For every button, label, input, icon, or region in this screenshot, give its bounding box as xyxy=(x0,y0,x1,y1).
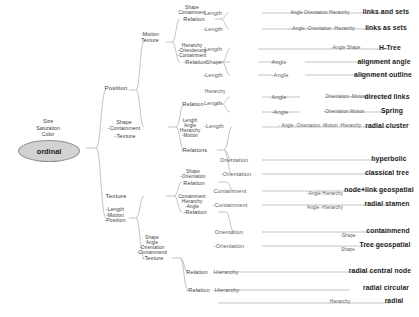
edge-label-shape-2: Shape xyxy=(330,248,366,253)
edge-label-hierarchy-2: Hierarchy xyxy=(204,269,248,275)
leaf-radial-central-node[interactable]: radial central node xyxy=(344,267,416,274)
edge-label-length-1: Length xyxy=(196,10,230,16)
edge-label-not-orientation-2: -Orientation xyxy=(204,243,254,249)
edge-label-containment: Containment xyxy=(204,188,256,194)
edge-label-not-length-1: -Length xyxy=(196,26,230,32)
root-oval-ordinal[interactable]: ordinal xyxy=(18,140,80,162)
node-position[interactable]: Position xyxy=(99,85,133,92)
edge-label-orientation-2: Orientation xyxy=(206,229,252,235)
node-not-relation-6[interactable]: -Relation xyxy=(172,209,218,215)
leaf-radial-circular[interactable]: radial circular xyxy=(356,284,416,291)
edge-label-not-length-2: -Length xyxy=(196,72,230,78)
node-shape-not-orientation[interactable]: Shape -Orientation xyxy=(168,170,218,180)
edge-label-not-angle-2: -Angle xyxy=(263,109,297,115)
leaf-links-and-sets[interactable]: links and sets xyxy=(356,8,416,15)
node-relation-1[interactable]: Relation xyxy=(172,16,216,22)
node-shape-not-containment[interactable]: Shape -Containment xyxy=(96,120,152,131)
leaf-classical-tree[interactable]: classical tree xyxy=(358,169,416,176)
edge-label-hierarchy-3: Hierarchy xyxy=(318,300,362,305)
edge-label-not-angle-1: -Angle xyxy=(263,72,297,78)
edge-label-not-length-3: -Length xyxy=(196,123,232,129)
edge-label-length-2: Length xyxy=(196,46,230,52)
root-attributes: Size Saturation Color xyxy=(18,118,78,138)
leaf-radial-stamen[interactable]: radial stamen xyxy=(358,200,416,207)
edge-label-not-shape-2: -Shape xyxy=(330,234,366,239)
leaf-h-tree[interactable]: H-Tree xyxy=(366,44,414,51)
edge-label-orientation-1: Orientation xyxy=(212,157,256,163)
edge-label-hierarchy-1: Hierarchy xyxy=(196,90,234,95)
leaf-radial[interactable]: radial xyxy=(372,297,416,304)
node-motion-texture[interactable]: -Motion Texture xyxy=(132,32,168,43)
diagram-canvas: Size Saturation Color ordinal Position -… xyxy=(0,0,419,317)
leaf-containmend[interactable]: containmend xyxy=(360,227,416,234)
leaf-spring[interactable]: Spring xyxy=(368,107,416,114)
edge-label-length-3: Length xyxy=(196,100,230,106)
leaf-tree-geospatial[interactable]: Tree geospatial xyxy=(354,241,416,248)
node-texture[interactable]: Texture xyxy=(100,193,132,200)
node-not-relations[interactable]: -Relations xyxy=(170,147,218,153)
node-relation-5[interactable]: Relation xyxy=(172,180,216,186)
edge-label-angle-1: Angle xyxy=(263,59,295,65)
edge-label-not-hierarchy-2: -Hierarchy xyxy=(202,287,250,293)
node-shape-angle-not-orientation-containment[interactable]: Shape Angle -Orientation -Containmend xyxy=(126,236,178,256)
leaf-links-as-sets[interactable]: links as sets xyxy=(356,24,416,31)
leaf-hyperbolic[interactable]: hyperbolic xyxy=(362,155,416,162)
edge-label-not-containment: -Containment xyxy=(202,202,258,208)
edge-label-angle-not-hierarchy: Angle -Hierarchy xyxy=(292,206,358,211)
leaf-radial-cluster[interactable]: radial cluster xyxy=(358,122,416,129)
leaf-node-link-geospatial[interactable]: node+link geospatial xyxy=(340,186,418,193)
node-not-texture[interactable]: -Texture xyxy=(104,133,146,139)
node-not-length-motion-position[interactable]: -Length -Motion -Position xyxy=(96,207,134,224)
edge-label-not-orientation-1: -Orientation xyxy=(212,171,260,177)
leaf-alignment-angle[interactable]: alignment angle xyxy=(352,58,416,65)
leaf-alignment-outline[interactable]: alignment outline xyxy=(350,71,416,78)
edge-label-not-shape: -Shape xyxy=(196,59,230,65)
edge-label-angle-2: Angle xyxy=(263,94,295,100)
node-not-texture-2[interactable]: -Texture xyxy=(132,255,174,261)
leaf-directed-links[interactable]: directed links xyxy=(358,93,416,100)
